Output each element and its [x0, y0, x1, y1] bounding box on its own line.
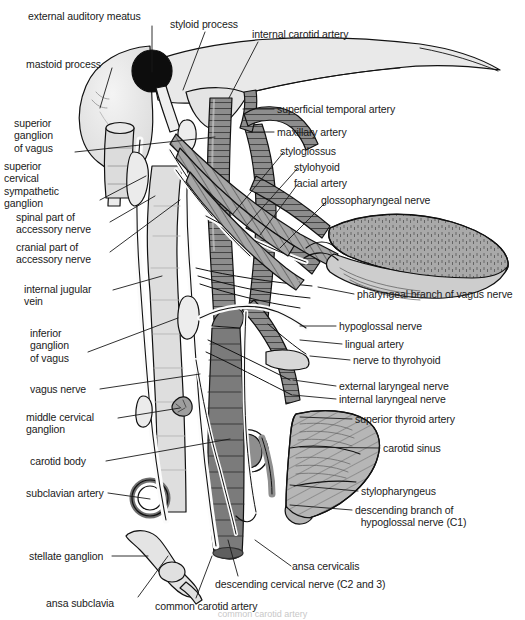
figure-caption: common carotid artery — [0, 609, 525, 619]
leader-ansa-cervicalis — [255, 540, 291, 566]
label-spinal-part-of-accessory-nerve: spinal part of accessory nerve — [16, 211, 91, 236]
label-descending-branch-of-hypoglossal: descending branch of hypoglossal nerve (… — [355, 504, 466, 529]
label-superior-cervical-sympathetic-ganglion: superior cervical sympathetic ganglion — [4, 160, 59, 209]
label-middle-cervical-ganglion: middle cervical ganglion — [26, 411, 94, 436]
label-lingual-artery: lingual artery — [345, 338, 404, 350]
label-cranial-part-of-accessory-nerve: cranial part of accessory nerve — [16, 241, 91, 266]
label-hypoglossal-nerve: hypoglossal nerve — [339, 320, 422, 332]
label-maxillary-artery: maxillary artery — [277, 126, 347, 138]
label-internal-carotid-artery: internal carotid artery — [252, 28, 348, 40]
label-carotid-sinus: carotid sinus — [383, 442, 441, 454]
label-carotid-body: carotid body — [30, 455, 86, 467]
label-styloglossus: styloglossus — [280, 145, 336, 157]
label-superficial-temporal-artery: superficial temporal artery — [277, 103, 395, 115]
leader-nerve-to-thyrohyoid — [310, 356, 350, 360]
label-stylopharyngeus: stylopharyngeus — [361, 485, 436, 497]
label-internal-jugular-vein: internal jugular vein — [24, 283, 91, 308]
anatomy-figure: external auditory meatusstyloid processi… — [0, 0, 525, 620]
leader-common-carotid-artery — [196, 556, 212, 598]
label-mastoid-process: mastoid process — [26, 58, 101, 70]
leader-lingual-artery — [300, 340, 342, 344]
label-internal-laryngeal-nerve: internal laryngeal nerve — [339, 393, 446, 405]
label-glossopharyngeal-nerve: glossopharyngeal nerve — [321, 194, 430, 206]
label-superior-thyroid-artery: superior thyroid artery — [355, 413, 455, 425]
label-superior-ganglion-of-vagus: superior ganglion of vagus — [14, 117, 53, 154]
label-ansa-subclavia: ansa subclavia — [46, 597, 114, 609]
label-external-auditory-meatus: external auditory meatus — [28, 10, 141, 22]
label-facial-artery: facial artery — [294, 177, 347, 189]
label-external-laryngeal-nerve: external laryngeal nerve — [339, 380, 449, 392]
label-stylohyoid: stylohyoid — [294, 161, 340, 173]
leader-pharyngeal-branch-of-vagus-nerve — [318, 287, 354, 294]
label-inferior-ganglion-of-vagus: inferior ganglion of vagus — [30, 327, 69, 364]
label-vagus-nerve: vagus nerve — [30, 383, 86, 395]
label-ansa-cervicalis: ansa cervicalis — [292, 560, 359, 572]
label-pharyngeal-branch-of-vagus-nerve: pharyngeal branch of vagus nerve — [357, 288, 513, 300]
label-nerve-to-thyrohyoid: nerve to thyrohyoid — [353, 354, 440, 366]
label-stellate-ganglion: stellate ganglion — [29, 550, 103, 562]
leader-external-laryngeal-nerve — [293, 380, 336, 386]
label-styloid-process: styloid process — [170, 18, 238, 30]
label-descending-cervical-nerve: descending cervical nerve (C2 and 3) — [215, 578, 385, 590]
label-subclavian-artery: subclavian artery — [26, 487, 104, 499]
